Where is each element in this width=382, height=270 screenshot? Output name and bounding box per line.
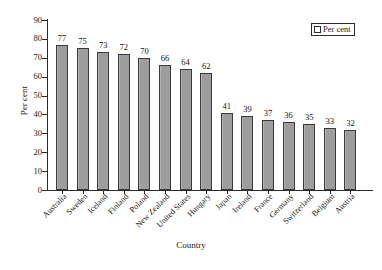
y-tick-label-wrap: 90 [0,16,42,25]
legend: Per cent [311,23,355,36]
bar [241,116,253,190]
y-tick-label-wrap: 0 [0,186,42,195]
bar [303,124,315,190]
bar [97,52,109,190]
bar [56,45,68,190]
bar-group: 62 [200,20,212,190]
y-tick-label: 30 [16,129,42,138]
bar-group: 35 [303,20,315,190]
bar-group: 75 [77,20,89,190]
legend-label: Per cent [323,25,351,34]
bar [200,73,212,190]
y-tick-label-wrap: 10 [0,167,42,176]
bar-group: 73 [97,20,109,190]
bar [138,58,150,190]
bar-group: 33 [324,20,336,190]
bar [159,65,171,190]
y-tick-label-wrap: 80 [0,34,42,43]
bar [77,48,89,190]
bar-group: 66 [159,20,171,190]
bar [180,69,192,190]
bar-group: 64 [180,20,192,190]
y-tick-label: 40 [16,110,42,119]
bar-group: 39 [241,20,253,190]
bar [262,120,274,190]
y-tick-label: 20 [16,148,42,157]
bar-group: 70 [138,20,150,190]
bar-group: 32 [344,20,356,190]
bar-group: 77 [56,20,68,190]
legend-swatch-icon [314,26,321,33]
y-tick-label-wrap: 40 [0,110,42,119]
y-tick-label: 10 [16,167,42,176]
y-tick-label-wrap: 50 [0,91,42,100]
y-tick-label: 60 [16,72,42,81]
y-tick-label-wrap: 20 [0,148,42,157]
bar-group: 41 [221,20,233,190]
x-axis-line [47,190,373,191]
bar-group: 36 [283,20,295,190]
y-tick-label-wrap: 60 [0,72,42,81]
y-tick-label: 70 [16,53,42,62]
x-axis-title: Country [0,240,382,250]
bar [344,130,356,190]
bar [324,128,336,190]
bar-value-label: 62 [193,62,219,71]
bar [283,122,295,190]
bar-group: 72 [118,20,130,190]
y-tick-label: 90 [16,16,42,25]
bar [118,54,130,190]
y-tick-label: 0 [16,186,42,195]
x-axis-category-labels: AustraliaSwedenIcelandFinlandPolandNew Z… [47,192,377,244]
bar-group: 37 [262,20,274,190]
y-tick-label: 80 [16,34,42,43]
y-tick-label-wrap: 70 [0,53,42,62]
bar [221,113,233,190]
y-tick-label: 50 [16,91,42,100]
bar-value-label: 32 [337,119,363,128]
bar-chart: Per cent 0102030405060708090 77757372706… [0,0,382,270]
bars-layer: 777573727066646241393736353332 [47,20,373,190]
y-tick-label-wrap: 30 [0,129,42,138]
